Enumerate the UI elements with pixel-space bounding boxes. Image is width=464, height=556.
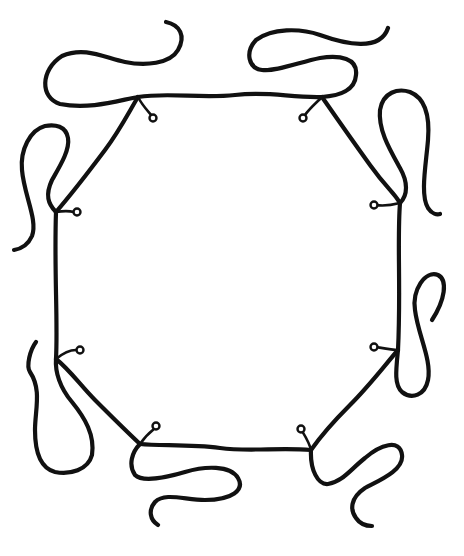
eyelet-right-bottom: [371, 344, 399, 351]
bottom-left-edge: [56, 359, 140, 444]
loose-end-right-top: [380, 91, 440, 215]
eyelet-bottom-left: [140, 423, 160, 445]
hook-icon: [305, 97, 322, 115]
bottom-right-edge: [311, 350, 398, 450]
eyelet-icon: [74, 209, 81, 216]
octagon-rope: [55, 94, 400, 450]
hook-icon: [56, 350, 76, 359]
left-edge: [55, 212, 56, 359]
eyelet-top-left: [138, 97, 157, 122]
hook-icon: [56, 211, 74, 212]
loose-end-bottom-left: [131, 444, 239, 525]
eyelet-icon: [77, 347, 84, 354]
loose-end-right-bottom: [396, 274, 444, 396]
eyelet-right-top: [371, 202, 401, 209]
hook-icon: [376, 347, 398, 350]
hook-icon: [376, 203, 400, 205]
loose-end-left-top: [14, 125, 68, 250]
eyelet-icon: [153, 423, 160, 430]
eyelet-bottom-right: [298, 426, 312, 451]
eyelet-left-bottom: [56, 347, 84, 360]
eyelet-top-right: [300, 97, 323, 122]
hook-icon: [140, 429, 154, 444]
hook-icon: [302, 431, 311, 450]
top-edge: [138, 94, 322, 97]
loose-end-bottom-right: [311, 445, 402, 526]
eyelet-icon: [371, 202, 378, 209]
eyelet-icon: [298, 426, 305, 433]
rope-octagon-drawing: [0, 0, 464, 556]
eyelet-icon: [300, 115, 307, 122]
bottom-edge: [140, 444, 311, 450]
hook-icon: [138, 97, 152, 116]
top-left-edge: [56, 97, 138, 212]
right-edge: [398, 203, 400, 350]
eyelet-icon: [371, 344, 378, 351]
eyelet-icon: [150, 115, 157, 122]
loose-end-top-right: [249, 28, 388, 97]
